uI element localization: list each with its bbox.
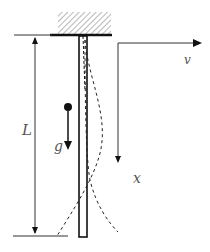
mass-point-dot bbox=[64, 103, 72, 111]
diagram-canvas: L g v x bbox=[0, 0, 210, 252]
x-axis-arrow-icon bbox=[115, 156, 121, 163]
mode-shape-curve-2 bbox=[85, 40, 118, 232]
length-label: L bbox=[21, 121, 32, 139]
v-axis-arrow-icon bbox=[193, 39, 202, 47]
gravity-label: g bbox=[54, 138, 63, 154]
axial-coordinate-label: x bbox=[133, 170, 141, 186]
beam bbox=[79, 36, 87, 237]
flow-velocity-label: v bbox=[184, 53, 191, 67]
fixed-support-hatch bbox=[58, 12, 111, 34]
length-dimension-top-arrow-icon bbox=[32, 37, 38, 44]
